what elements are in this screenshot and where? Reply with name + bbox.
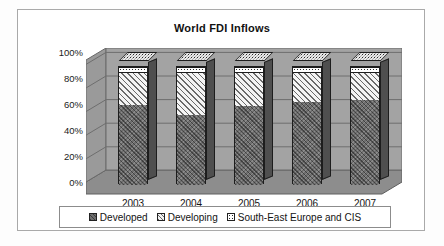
legend-swatch-icon-developing [157, 213, 165, 221]
legend-label-see-cis: South-East Europe and CIS [238, 212, 361, 223]
bar-2006[interactable] [292, 56, 322, 184]
seg-2003-developing [119, 72, 147, 105]
chart-frame: World FDI Inflows 100% 80% 60% 40% 20% 0… [17, 9, 425, 231]
seg-2005-developing [235, 72, 263, 106]
legend-item-see-cis[interactable]: South-East Europe and CIS [227, 212, 361, 223]
seg-2003-developed [119, 105, 147, 185]
bar-2003[interactable] [118, 56, 148, 184]
seg-2006-developed [293, 102, 321, 185]
chart-legend: Developed Developing South-East Europe a… [59, 206, 391, 228]
seg-2004-developed [177, 115, 205, 185]
legend-label-developing: Developing [168, 212, 218, 223]
y-tick-40: 40% [64, 125, 83, 136]
seg-2006-developing [293, 72, 321, 103]
seg-2004-developing [177, 72, 205, 116]
legend-swatch-icon-developed [89, 213, 97, 221]
y-tick-60: 60% [64, 99, 83, 110]
bar-2004[interactable] [176, 56, 206, 184]
chart-title: World FDI Inflows [18, 22, 426, 34]
legend-item-developed[interactable]: Developed [89, 212, 148, 223]
seg-2007-developing [351, 72, 379, 100]
y-tick-100: 100% [59, 47, 83, 58]
legend-swatch-icon-see-cis [227, 213, 235, 221]
plot-area: 100% 80% 60% 40% 20% 0% [45, 48, 405, 198]
seg-2007-developed [351, 100, 379, 185]
y-tick-20: 20% [64, 151, 83, 162]
seg-2005-developed [235, 106, 263, 185]
chart-3d-scene [86, 48, 402, 198]
y-tick-80: 80% [64, 73, 83, 84]
legend-label-developed: Developed [100, 212, 148, 223]
y-axis: 100% 80% 60% 40% 20% 0% [45, 48, 85, 184]
chart-screenshot: World FDI Inflows 100% 80% 60% 40% 20% 0… [0, 0, 444, 246]
legend-item-developing[interactable]: Developing [157, 212, 218, 223]
y-tick-0: 0% [69, 177, 83, 188]
bar-2005[interactable] [234, 56, 264, 184]
bar-2007[interactable] [350, 56, 380, 184]
